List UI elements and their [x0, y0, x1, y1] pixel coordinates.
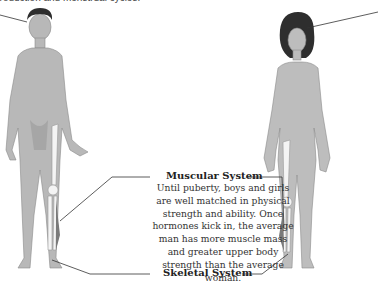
skeletal-system-label: Skeletal System — [163, 267, 252, 278]
muscular-system-label: Muscular System — [166, 170, 263, 181]
male-figure — [6, 8, 88, 268]
